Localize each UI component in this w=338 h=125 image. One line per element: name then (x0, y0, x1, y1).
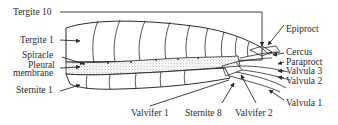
label-sternite-8: Sternite 8 (185, 108, 222, 118)
label-valvifer-1: Valvifer 1 (131, 108, 169, 118)
label-valvula-1: Valvula 1 (286, 98, 322, 108)
label-cercus: Cercus (286, 47, 313, 57)
label-spiracle: Spiracle (22, 50, 53, 60)
label-sternite-1: Sternite 1 (16, 85, 53, 95)
label-pleural-membrane-2: membrane (13, 68, 53, 78)
label-tergite-10: Tergite 10 (13, 7, 52, 17)
label-epiproct: Epiproct (286, 24, 319, 34)
label-tergite-1: Tergite 1 (20, 35, 54, 45)
label-valvula-2: Valvula 2 (286, 76, 322, 86)
label-valvifer-2: Valvifer 2 (235, 108, 273, 118)
insect-abdomen-diagram: Tergite 10 Tergite 1 Spiracle Pleural me… (0, 0, 338, 125)
label-valvula-3: Valvula 3 (286, 66, 322, 76)
